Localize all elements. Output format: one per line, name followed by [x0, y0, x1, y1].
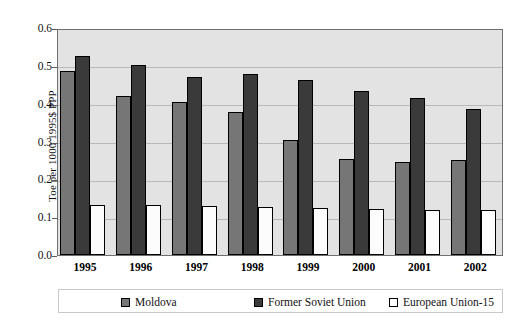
legend-swatch-icon: [254, 298, 263, 307]
x-axis-tick-labels: 19951996199719981999200020012002: [57, 261, 503, 279]
bar[interactable]: [90, 205, 105, 255]
plot-area: [57, 29, 503, 256]
legend-label: Former Soviet Union: [268, 296, 366, 308]
bar[interactable]: [75, 56, 90, 255]
bar[interactable]: [243, 74, 258, 255]
x-axis-tick-label: 2000: [336, 261, 392, 273]
legend-label: Moldova: [135, 296, 177, 308]
bar-group: [114, 30, 170, 255]
legend-item[interactable]: Moldova: [121, 294, 177, 310]
legend-item[interactable]: European Union-15: [389, 294, 494, 310]
x-axis-tick-label: 2001: [392, 261, 448, 273]
bar[interactable]: [258, 207, 273, 255]
x-axis-tick-label: 2002: [447, 261, 503, 273]
bar-group: [58, 30, 114, 255]
bar-group: [225, 30, 281, 255]
y-axis-tick-mark: [52, 256, 57, 257]
y-axis-tick-label: 0.2: [6, 174, 52, 186]
bar-chart: Toe per 1000 1995$ PPP 0.00.10.20.30.40.…: [0, 0, 526, 328]
y-axis-tick-label: 0.3: [6, 137, 52, 149]
bar[interactable]: [202, 206, 217, 255]
bar[interactable]: [116, 96, 131, 255]
legend-item[interactable]: Former Soviet Union: [254, 294, 366, 310]
chart-legend: MoldovaFormer Soviet UnionEuropean Union…: [58, 289, 503, 313]
bar[interactable]: [395, 162, 410, 255]
bar[interactable]: [410, 98, 425, 255]
x-axis-tick-label: 1998: [224, 261, 280, 273]
y-axis-tick-label: 0.6: [6, 23, 52, 35]
y-axis-tick-label: 0.4: [6, 99, 52, 111]
bar-group: [281, 30, 337, 255]
bar[interactable]: [354, 91, 369, 255]
bar[interactable]: [172, 102, 187, 255]
bar-group: [448, 30, 504, 255]
bar[interactable]: [339, 159, 354, 255]
bar[interactable]: [313, 208, 328, 255]
y-axis-tick-label: 0.1: [6, 212, 52, 224]
bar-group: [170, 30, 226, 255]
bar-group: [337, 30, 393, 255]
x-axis-tick-label: 1997: [169, 261, 225, 273]
bar[interactable]: [146, 205, 161, 255]
bar[interactable]: [451, 160, 466, 255]
bar-group: [393, 30, 449, 255]
y-axis-tick-labels: 0.00.10.20.30.40.50.6: [0, 0, 52, 328]
bar[interactable]: [298, 80, 313, 255]
legend-swatch-icon: [121, 298, 130, 307]
bar[interactable]: [481, 210, 496, 255]
bar[interactable]: [187, 77, 202, 255]
legend-swatch-icon: [389, 298, 398, 307]
y-axis-tick-label: 0.5: [6, 61, 52, 73]
bar[interactable]: [425, 210, 440, 255]
bar[interactable]: [283, 140, 298, 255]
x-axis-tick-label: 1996: [113, 261, 169, 273]
y-axis-tick-label: 0.0: [6, 250, 52, 262]
bar[interactable]: [131, 65, 146, 255]
bars-layer: [58, 30, 502, 255]
bar[interactable]: [60, 71, 75, 255]
bar[interactable]: [369, 209, 384, 255]
bar[interactable]: [466, 109, 481, 255]
legend-label: European Union-15: [403, 296, 494, 308]
x-axis-tick-label: 1995: [57, 261, 113, 273]
x-axis-tick-label: 1999: [280, 261, 336, 273]
bar[interactable]: [228, 112, 243, 255]
